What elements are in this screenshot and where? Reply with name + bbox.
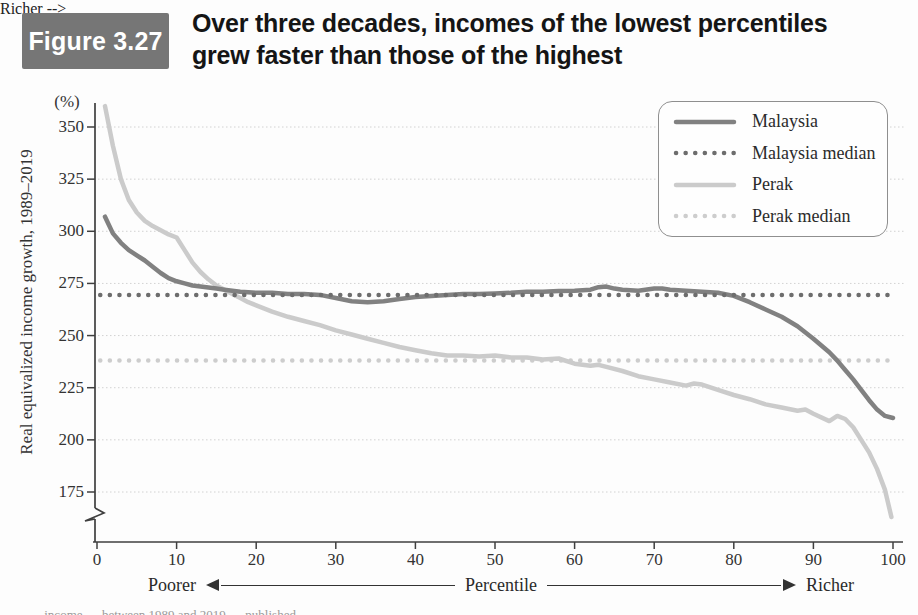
right-arrow-icon bbox=[783, 579, 796, 591]
source-note: … income … between 1989 and 2019 … publi… bbox=[28, 607, 900, 615]
chart-canvas bbox=[0, 0, 918, 615]
legend-line-sample bbox=[673, 180, 737, 190]
legend-line-sample bbox=[673, 211, 737, 221]
legend-label: Malaysia bbox=[752, 111, 818, 132]
x-axis-annotation-row: Poorer Percentile Richer bbox=[148, 573, 854, 597]
figure-page: Figure 3.27 Over three decades, incomes … bbox=[0, 0, 918, 615]
legend-line-sample bbox=[673, 148, 737, 158]
legend-label: Perak bbox=[752, 174, 793, 195]
left-arrow-line bbox=[221, 585, 455, 586]
richer-label: Richer bbox=[806, 575, 854, 596]
legend-item-perak-median: Perak median bbox=[659, 202, 887, 230]
poorer-label: Poorer bbox=[148, 575, 196, 596]
legend-item-malaysia: Malaysia bbox=[659, 108, 887, 136]
right-arrow-line bbox=[547, 585, 781, 586]
x-axis-title: Percentile bbox=[465, 575, 537, 596]
legend-label: Perak median bbox=[752, 206, 850, 227]
legend-label: Malaysia median bbox=[752, 143, 875, 164]
legend-item-malaysia-median: Malaysia median bbox=[659, 139, 887, 167]
legend-item-perak: Perak bbox=[659, 171, 887, 199]
legend: MalaysiaMalaysia medianPerakPerak median bbox=[658, 101, 888, 237]
left-arrow-icon bbox=[206, 579, 219, 591]
legend-line-sample bbox=[673, 117, 737, 127]
